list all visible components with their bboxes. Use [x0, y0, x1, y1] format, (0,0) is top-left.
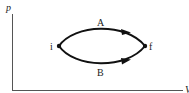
axes: p V: [5, 2, 189, 93]
path-a: A: [59, 17, 145, 46]
point-i-label: i: [50, 41, 53, 52]
point-f-label: f: [149, 41, 153, 52]
path-b-arrow-icon: [121, 58, 131, 65]
path-b-curve: [59, 46, 145, 63]
path-b-label: B: [97, 67, 104, 78]
path-a-label: A: [97, 17, 105, 28]
point-f: f: [143, 41, 153, 52]
y-axis-label: p: [5, 2, 11, 13]
pv-diagram: p V A B i f: [0, 0, 189, 93]
x-axis-label: V: [185, 84, 189, 93]
point-i: i: [50, 41, 61, 52]
path-b: B: [59, 46, 145, 78]
point-i-dot: [57, 44, 61, 48]
path-a-curve: [59, 29, 145, 46]
point-f-dot: [143, 44, 147, 48]
